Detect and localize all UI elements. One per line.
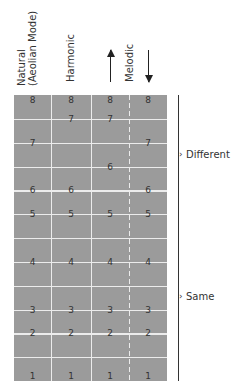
scale-degree-melodic_up: 3	[100, 305, 120, 315]
label-same: Same	[186, 291, 214, 302]
scale-degree-melodic_up: 2	[100, 328, 120, 338]
scale-degree-melodic_up: 4	[100, 257, 120, 267]
scale-degree-natural: 5	[23, 209, 43, 219]
scale-grid: 87654321876543218765432187654321	[14, 95, 167, 381]
scale-degree-melodic_up: 1	[100, 371, 120, 381]
grid-column-line	[91, 95, 92, 381]
scale-degree-melodic_down: 3	[138, 305, 158, 315]
scale-degree-melodic_up: 8	[100, 95, 120, 105]
scale-degree-natural: 4	[23, 257, 43, 267]
grid-dashed-column-line	[129, 95, 130, 381]
ascending-arrow-icon	[110, 50, 111, 82]
scale-degree-harmonic: 7	[61, 114, 81, 124]
scale-degree-melodic_down: 4	[138, 257, 158, 267]
scale-degree-harmonic: 8	[61, 95, 81, 105]
scale-degree-melodic_up: 6	[100, 162, 120, 172]
scale-degree-melodic_down: 2	[138, 328, 158, 338]
header-natural-line1: Natural	[16, 11, 27, 86]
grid-column-line	[51, 95, 52, 381]
scale-degree-melodic_down: 7	[138, 138, 158, 148]
scale-degree-melodic_down: 1	[138, 371, 158, 381]
bracket-different-tip: ›	[179, 149, 183, 159]
scale-degree-melodic_up: 5	[100, 209, 120, 219]
scale-degree-natural: 6	[23, 185, 43, 195]
scale-degree-melodic_down: 8	[138, 95, 158, 105]
scale-degree-harmonic: 6	[61, 185, 81, 195]
scale-degree-harmonic: 2	[61, 328, 81, 338]
scale-degree-natural: 3	[23, 305, 43, 315]
header-natural-line2: (Aeolian Mode)	[27, 11, 38, 86]
scale-degree-melodic_up: 7	[100, 114, 120, 124]
scale-degree-natural: 1	[23, 371, 43, 381]
scale-degree-natural: 8	[23, 95, 43, 105]
scale-degree-harmonic: 3	[61, 305, 81, 315]
scale-degree-melodic_down: 5	[138, 209, 158, 219]
header-harmonic: Harmonic	[65, 34, 76, 82]
scale-degree-natural: 2	[23, 328, 43, 338]
scale-degree-harmonic: 4	[61, 257, 81, 267]
scale-degree-melodic_down: 6	[138, 185, 158, 195]
bracket-same-tip: ›	[179, 291, 183, 301]
scale-degree-natural: 7	[23, 138, 43, 148]
header-melodic: Melodic	[124, 44, 135, 82]
descending-arrow-icon	[148, 50, 149, 82]
header-natural: Natural (Aeolian Mode)	[16, 11, 38, 86]
scale-degree-harmonic: 5	[61, 209, 81, 219]
label-different: Different	[186, 149, 230, 160]
scale-degree-harmonic: 1	[61, 371, 81, 381]
